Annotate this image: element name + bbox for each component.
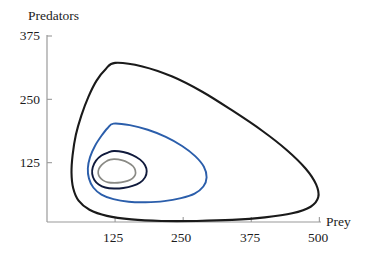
- x-tick-label-250: 250: [171, 231, 191, 245]
- x-tick-label-125: 125: [103, 231, 123, 245]
- y-tick-label-125: 125: [8, 156, 40, 170]
- y-axis-title: Predators: [28, 9, 79, 23]
- x-tick-label-500: 500: [308, 231, 328, 245]
- y-tick-label-375: 375: [8, 29, 40, 43]
- y-tick-label-250: 250: [8, 93, 40, 107]
- orbit-curves: [71, 63, 318, 221]
- axis-lines: [47, 35, 321, 222]
- tick-marks: [47, 36, 319, 222]
- x-tick-label-375: 375: [240, 231, 260, 245]
- orbit-second-orbit: [88, 124, 207, 203]
- orbit-inner-orbit: [98, 159, 135, 183]
- plot-canvas: [0, 0, 371, 260]
- x-axis-title: Prey: [326, 215, 351, 229]
- phase-portrait-figure: 375 250 125 125 250 375 500 Predators Pr…: [0, 0, 371, 260]
